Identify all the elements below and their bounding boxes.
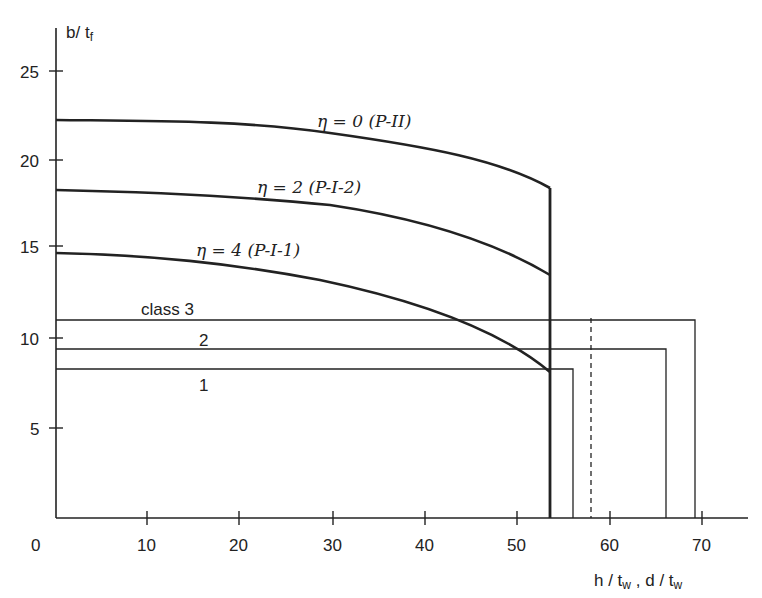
x-tick-70: 70 <box>692 536 711 555</box>
curve-eta-4 <box>56 253 550 372</box>
chart: 25 20 15 10 5 0 10 20 30 40 50 60 70 b/ … <box>0 0 762 598</box>
label-class-1: 1 <box>199 376 208 395</box>
label-eta-4: η = 4 (P-I-1) <box>196 240 300 260</box>
y-tick-5: 5 <box>30 420 39 439</box>
curve-eta-2 <box>56 190 550 275</box>
x-tick-30: 30 <box>323 536 342 555</box>
y-tick-25: 25 <box>20 63 39 82</box>
class-limits <box>56 320 695 518</box>
label-eta-0: η = 0 (P-II) <box>317 111 411 131</box>
x-tick-50: 50 <box>507 536 526 555</box>
eta-curves <box>56 120 550 372</box>
label-class-2: 2 <box>199 331 208 350</box>
class-2-limit <box>56 349 666 518</box>
class-3-limit <box>56 320 695 518</box>
label-class-3: class 3 <box>141 300 194 319</box>
y-tick-20: 20 <box>20 152 39 171</box>
y-tick-15: 15 <box>20 238 39 257</box>
x-tick-40: 40 <box>415 536 434 555</box>
x-tick-10: 10 <box>137 536 156 555</box>
x-tick-60: 60 <box>600 536 619 555</box>
y-axis-label: b/ tf <box>66 23 94 44</box>
x-axis-label: h / tw , d / tw <box>594 571 683 592</box>
class-1-limit <box>56 369 573 518</box>
x-tick-0: 0 <box>31 536 40 555</box>
y-tick-10: 10 <box>20 330 39 349</box>
x-tick-20: 20 <box>229 536 248 555</box>
label-eta-2: η = 2 (P-I-2) <box>257 177 361 197</box>
